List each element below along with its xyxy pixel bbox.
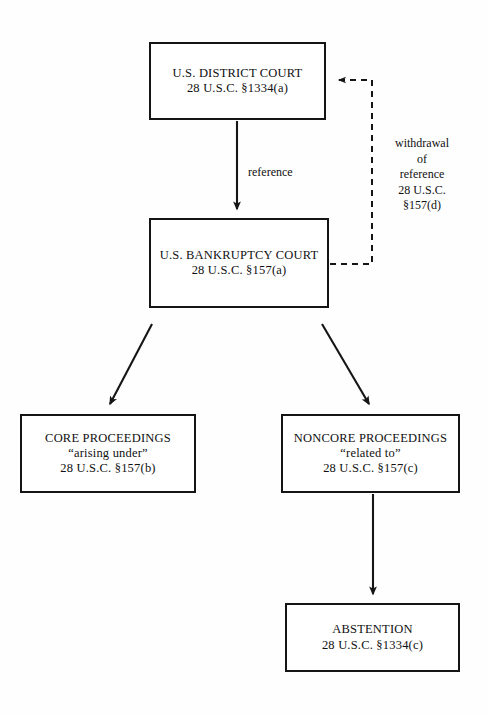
withdrawal-of-reference-arrow-path bbox=[330, 80, 372, 264]
abstention-citation: 28 U.S.C. §1334(c) bbox=[322, 638, 423, 653]
noncore-proceedings-arrow-line bbox=[322, 324, 369, 404]
withdrawal-label-line-3: reference bbox=[395, 167, 449, 183]
core-proceedings-arrow-line bbox=[110, 324, 152, 404]
core-proceedings-quote: “arising under” bbox=[68, 446, 148, 461]
bankruptcy-court-box[interactable]: U.S. BANKRUPTCY COURT 28 U.S.C. §157(a) bbox=[149, 218, 329, 308]
withdrawal-edge-label: withdrawal of reference 28 U.S.C. §157(d… bbox=[395, 136, 449, 214]
withdrawal-label-line-2: of bbox=[395, 152, 449, 168]
bankruptcy-court-citation: 28 U.S.C. §157(a) bbox=[192, 263, 287, 278]
noncore-proceedings-quote: “related to” bbox=[340, 446, 400, 461]
abstention-title: ABSTENTION bbox=[332, 622, 412, 637]
abstention-box[interactable]: ABSTENTION 28 U.S.C. §1334(c) bbox=[285, 603, 460, 672]
withdrawal-label-line-4: 28 U.S.C. bbox=[395, 183, 449, 199]
flowchart-canvas: U.S. DISTRICT COURT 28 U.S.C. §1334(a) U… bbox=[0, 0, 487, 715]
core-proceedings-box[interactable]: CORE PROCEEDINGS “arising under” 28 U.S.… bbox=[20, 414, 196, 493]
reference-edge-label: reference bbox=[248, 165, 293, 181]
noncore-proceedings-citation: 28 U.S.C. §157(c) bbox=[323, 461, 418, 476]
noncore-proceedings-box[interactable]: NONCORE PROCEEDINGS “related to” 28 U.S.… bbox=[281, 414, 460, 493]
noncore-proceedings-title: NONCORE PROCEEDINGS bbox=[294, 431, 447, 446]
bankruptcy-court-title: U.S. BANKRUPTCY COURT bbox=[160, 248, 319, 263]
district-court-citation: 28 U.S.C. §1334(a) bbox=[187, 81, 288, 96]
withdrawal-label-line-1: withdrawal bbox=[395, 136, 449, 152]
core-proceedings-title: CORE PROCEEDINGS bbox=[45, 431, 171, 446]
reference-edge-label-text: reference bbox=[248, 165, 293, 181]
core-proceedings-citation: 28 U.S.C. §157(b) bbox=[60, 461, 155, 476]
withdrawal-label-line-5: §157(d) bbox=[395, 198, 449, 214]
district-court-title: U.S. DISTRICT COURT bbox=[173, 66, 303, 81]
district-court-box[interactable]: U.S. DISTRICT COURT 28 U.S.C. §1334(a) bbox=[149, 42, 326, 120]
